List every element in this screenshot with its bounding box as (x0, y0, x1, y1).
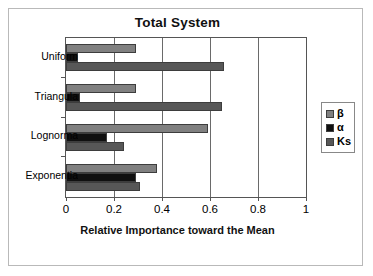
chart-container: Total System UniformTriangulaLognormaExp… (0, 0, 373, 276)
legend-label-alpha: α (337, 122, 344, 133)
y-axis-tick (61, 117, 65, 118)
chart-legend: β α Ks (321, 102, 355, 153)
legend-item: α (326, 121, 351, 134)
category-label: Uniform (41, 50, 78, 62)
x-axis-tick-label: 0.8 (250, 203, 266, 215)
legend-swatch-beta (326, 110, 334, 118)
gridline (258, 38, 259, 197)
x-axis-tick-label: 0.4 (154, 203, 170, 215)
y-axis-tick (61, 77, 65, 78)
legend-label-beta: β (337, 108, 344, 119)
bar (66, 164, 157, 173)
x-axis-ticks: 00.20.40.60.81 (0, 201, 355, 219)
x-axis-tick-label: 1 (303, 203, 309, 215)
x-axis-tick-mark (210, 197, 211, 201)
legend-item: Ks (326, 135, 351, 148)
x-axis-tick-mark (114, 197, 115, 201)
bar (66, 62, 224, 71)
chart-title: Total System (0, 15, 355, 30)
x-axis-tick-mark (66, 197, 67, 201)
x-axis-tick-mark (258, 197, 259, 201)
legend-item: β (326, 107, 351, 120)
y-axis-tick (61, 156, 65, 157)
legend-swatch-ks (326, 138, 334, 146)
x-axis-tick-mark (162, 197, 163, 201)
category-label: Triangula (35, 90, 78, 102)
legend-swatch-alpha (326, 124, 334, 132)
category-axis-labels: UniformTriangulaLognormaExponentia (0, 37, 78, 198)
x-axis-tick-label: 0 (63, 203, 69, 215)
category-label: Lognorma (31, 129, 78, 141)
bar (66, 124, 208, 133)
x-axis-tick-mark (306, 197, 307, 201)
category-label: Exponentia (25, 169, 78, 181)
bar (66, 102, 222, 111)
x-axis-tick-label: 0.6 (202, 203, 218, 215)
plot-area (65, 37, 307, 198)
legend-label-ks: Ks (337, 136, 351, 147)
x-axis-title: Relative Importance toward the Mean (0, 224, 355, 236)
x-axis-tick-label: 0.2 (106, 203, 122, 215)
